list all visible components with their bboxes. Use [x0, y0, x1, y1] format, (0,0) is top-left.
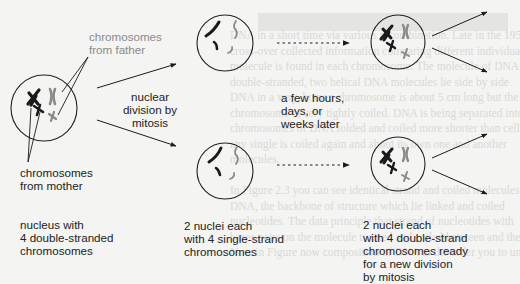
father-chromosome-large-icon [50, 89, 55, 104]
time-delay-label: a few hours, days, or weeks later [281, 91, 344, 130]
label-line: weeks later [281, 117, 344, 130]
label-line: a few hours, [281, 91, 344, 104]
mother-chromosome-small-icon [34, 105, 43, 115]
label-line: from mother [20, 179, 93, 192]
caption-line: with 4 double-strand [363, 231, 468, 244]
label-line: mitosis [113, 116, 187, 129]
mother-chromosome-large-icon [28, 90, 39, 105]
label-line: chromosomes [89, 30, 162, 43]
label-line: nuclear [113, 90, 187, 103]
caption-line: by mitosis [363, 270, 468, 283]
label-line: chromosomes [20, 166, 93, 179]
nucleus-single-strand-top [197, 15, 253, 71]
caption-line: 2 nuclei each [363, 218, 468, 231]
father-chromosomes-label: chromosomes from father [89, 30, 162, 56]
label-line: from father [89, 43, 162, 56]
caption-line: for a new division [363, 257, 468, 270]
label-line: division by [113, 103, 187, 116]
mother-chromosomes-label: chromosomes from mother [20, 166, 93, 192]
caption-line: chromosomes [184, 245, 284, 258]
label-line: days, or [281, 104, 344, 117]
stage-single-strand-caption: 2 nuclei each with 4 single-strand chrom… [184, 219, 284, 258]
next-division-arrow-1 [432, 12, 487, 36]
mother-callout-lines [28, 108, 40, 162]
mitosis-arrow-up [97, 64, 176, 88]
nucleus-double-strand-top [371, 15, 425, 69]
father-callout-lines [58, 57, 88, 115]
father-chromosome-small-icon [49, 112, 56, 121]
caption-line: 4 double-stranded [20, 231, 113, 244]
stage-double-strand-caption: 2 nuclei each with 4 double-strand chrom… [363, 218, 468, 283]
caption-line: 2 nuclei each [184, 219, 284, 232]
mitosis-label: nuclear division by mitosis [113, 90, 187, 129]
nucleus-double-strand-bottom [371, 137, 425, 191]
stage-start-caption: nucleus with 4 double-stranded chromosom… [20, 218, 113, 257]
caption-line: nucleus with [20, 218, 113, 231]
next-division-arrow-2 [432, 48, 487, 72]
nucleus-single-strand-bottom [197, 143, 253, 199]
caption-line: with 4 single-strand [184, 232, 284, 245]
next-division-arrow-4 [432, 170, 487, 194]
caption-line: chromosomes ready [363, 244, 468, 257]
caption-line: chromosomes [20, 244, 113, 257]
next-division-arrow-3 [432, 134, 487, 158]
